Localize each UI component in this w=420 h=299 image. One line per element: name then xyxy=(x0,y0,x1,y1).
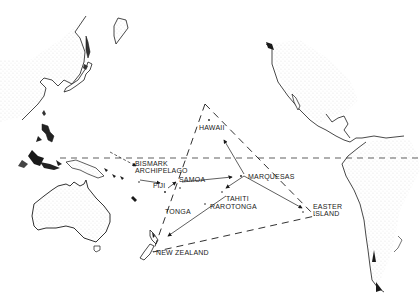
americas-landmass xyxy=(265,0,420,292)
australia-landmass xyxy=(32,180,110,242)
label-samoa: SAMOA xyxy=(179,176,205,184)
asia-landmass xyxy=(0,16,137,202)
label-rarotonga: RAROTONGA xyxy=(210,203,257,211)
label-fiji: FIJI xyxy=(153,182,165,190)
tasmania xyxy=(94,246,100,252)
map-graphics xyxy=(0,0,420,299)
migration-arrows xyxy=(110,140,302,236)
label-hawaii: HAWAII xyxy=(199,124,225,132)
label-new-zealand: NEW ZEALAND xyxy=(156,249,209,257)
label-tonga: TONGA xyxy=(165,208,191,216)
polynesian-triangle-map: HAWAII BISMARK ARCHIPELAGO SAMOA FIJI MA… xyxy=(0,0,420,299)
label-island: ISLAND xyxy=(313,210,340,218)
label-tahiti: TAHITI xyxy=(226,195,249,203)
label-archipelago: ARCHIPELAGO xyxy=(135,167,188,175)
label-marquesas: MARQUESAS xyxy=(248,173,295,181)
